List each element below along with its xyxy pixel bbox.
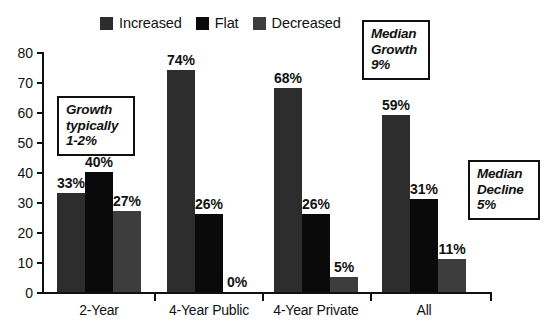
annotation-median-growth-line-2: Growth [371, 42, 422, 58]
bar-value-label: 31% [410, 182, 438, 196]
annotation-growth-typically: Growth typically 1-2% [57, 96, 135, 156]
y-axis-tick: 80 [37, 52, 42, 54]
bar[interactable] [274, 88, 302, 292]
bar[interactable] [302, 214, 330, 292]
y-axis-tick-label: 20 [17, 226, 33, 240]
y-axis-tick: 30 [37, 202, 42, 204]
legend-item-label: Decreased [272, 16, 341, 31]
legend-swatch-icon [100, 17, 113, 30]
annotation-growth-line-1: Growth [66, 102, 127, 118]
legend-item-label: Increased [119, 16, 182, 31]
y-axis-tick-label: 30 [17, 196, 33, 210]
chart-legend: IncreasedFlatDecreased [100, 13, 355, 33]
bar[interactable] [113, 211, 141, 292]
x-axis-category-label: 2-Year [79, 302, 119, 318]
bar-value-label: 68% [274, 71, 302, 85]
annotation-growth-line-2: typically [66, 118, 127, 134]
annotation-median-decline-line-1: Median [477, 166, 532, 182]
bar-value-label: 40% [85, 155, 113, 169]
legend-item-increased[interactable]: Increased [100, 16, 182, 31]
legend-item-decreased[interactable]: Decreased [253, 16, 341, 31]
annotation-median-decline-line-3: 5% [477, 197, 532, 213]
bar[interactable] [330, 277, 358, 292]
bar-value-label: 27% [113, 194, 141, 208]
legend-item-flat[interactable]: Flat [196, 16, 239, 31]
y-axis-tick-label: 10 [17, 256, 33, 270]
y-axis-tick: 40 [37, 172, 42, 174]
bar[interactable] [57, 193, 85, 292]
annotation-median-growth-line-3: 9% [371, 57, 422, 73]
bar-value-label: 33% [57, 176, 85, 190]
bar-value-label: 26% [302, 197, 330, 211]
x-axis-tick [370, 292, 372, 301]
y-axis-tick: 70 [37, 82, 42, 84]
bar[interactable] [195, 214, 223, 292]
bar[interactable] [410, 199, 438, 292]
bar[interactable] [438, 259, 466, 292]
bar-value-label: 74% [167, 53, 195, 67]
x-axis-category-label: All [417, 302, 432, 318]
y-axis-tick: 10 [37, 262, 42, 264]
y-axis-tick-label: 0 [25, 286, 33, 300]
bar-value-label: 26% [195, 197, 223, 211]
bar[interactable] [167, 70, 195, 292]
y-axis-tick-label: 70 [17, 76, 33, 90]
x-axis-category-label: 4-Year Public [169, 302, 249, 318]
bar[interactable] [85, 172, 113, 292]
bar-value-label: 59% [382, 98, 410, 112]
bar[interactable] [382, 115, 410, 292]
annotation-median-growth-line-1: Median [371, 26, 422, 42]
y-axis-tick: 50 [37, 142, 42, 144]
legend-swatch-icon [196, 17, 209, 30]
y-axis-tick-label: 60 [17, 106, 33, 120]
annotation-median-decline-line-2: Decline [477, 182, 532, 198]
legend-swatch-icon [253, 17, 266, 30]
y-axis-line [42, 52, 44, 293]
y-axis-tick: 0 [37, 292, 42, 294]
legend-item-label: Flat [215, 16, 239, 31]
y-axis-tick-label: 40 [17, 166, 33, 180]
bar-value-label: 11% [438, 242, 465, 256]
plot-area: 01020304050607080 33%40%27%74%26%0%68%26… [42, 52, 491, 292]
y-axis-tick: 60 [37, 112, 42, 114]
bar-value-label: 5% [334, 260, 354, 274]
x-axis-tick [154, 292, 156, 301]
x-axis-line [42, 292, 491, 294]
y-axis-tick: 20 [37, 232, 42, 234]
annotation-median-decline: Median Decline 5% [468, 160, 540, 220]
x-axis-tick [262, 292, 264, 301]
y-axis-tick-label: 80 [17, 46, 33, 60]
x-axis-category-label: 4-Year Private [273, 302, 358, 318]
bar-value-label: 0% [227, 275, 247, 289]
annotation-median-growth: Median Growth 9% [362, 20, 430, 80]
grouped-bar-chart: IncreasedFlatDecreased 01020304050607080… [0, 0, 547, 336]
y-axis-tick-label: 50 [17, 136, 33, 150]
x-axis-tick [490, 292, 492, 301]
annotation-growth-line-3: 1-2% [66, 133, 127, 149]
